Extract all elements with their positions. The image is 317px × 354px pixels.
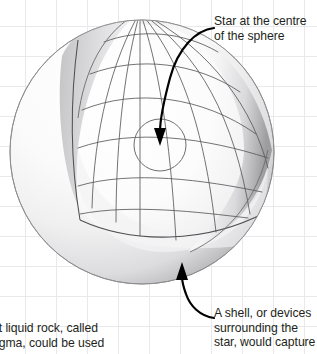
dyson-sphere-figure: Star at the centre of the sphere A shell… xyxy=(0,0,317,354)
body-text-clipped: ot liquid rock, called agma, could be us… xyxy=(0,321,104,350)
callout-star-label: Star at the centre of the sphere xyxy=(214,14,307,43)
sphere-illustration xyxy=(0,0,317,354)
callout-shell-label: A shell, or devices surrounding the star… xyxy=(214,306,315,350)
sphere-cutaway-interior xyxy=(60,11,272,253)
